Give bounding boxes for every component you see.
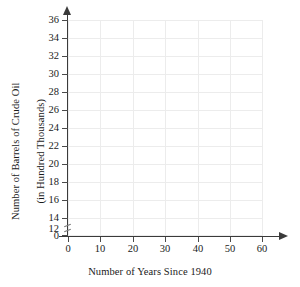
y-tick — [62, 218, 68, 219]
y-axis-break-stroke — [64, 224, 71, 227]
y-tick — [62, 182, 68, 183]
x-axis-line — [59, 236, 280, 237]
y-tick — [62, 56, 68, 57]
y-axis-arrow-icon — [63, 6, 71, 15]
y-tick-label: 14 — [19, 213, 59, 224]
y-tick-label: 28 — [19, 87, 59, 98]
y-tick-label: 16 — [19, 195, 59, 206]
gridline-vertical — [198, 20, 199, 236]
y-tick-label: 30 — [19, 69, 59, 80]
x-tick — [230, 237, 231, 242]
gridline-vertical — [68, 20, 69, 236]
y-tick-label: 18 — [19, 177, 59, 188]
y-tick — [62, 146, 68, 147]
gridline-vertical — [133, 20, 134, 236]
y-tick-label: 24 — [19, 123, 59, 134]
x-axis-arrow-icon — [279, 232, 288, 240]
y-tick — [62, 235, 68, 236]
y-tick-label: 26 — [19, 105, 59, 116]
x-tick — [262, 237, 263, 242]
x-tick — [68, 237, 69, 242]
x-tick — [165, 237, 166, 242]
y-tick-label: 20 — [19, 159, 59, 170]
y-tick — [62, 20, 68, 21]
plot-area — [68, 20, 263, 236]
gridline-vertical — [165, 20, 166, 236]
y-tick-label: 34 — [19, 33, 59, 44]
gridline-vertical — [262, 20, 263, 236]
x-tick — [198, 237, 199, 242]
y-tick — [62, 200, 68, 201]
gridline-vertical — [230, 20, 231, 236]
y-tick — [62, 164, 68, 165]
y-axis-break-stroke — [64, 229, 71, 232]
gridline-vertical — [100, 20, 101, 236]
y-axis-line — [67, 14, 68, 237]
y-tick-label: 22 — [19, 141, 59, 152]
y-tick — [62, 38, 68, 39]
y-tick — [62, 74, 68, 75]
y-tick-label-zero: 0 — [19, 231, 59, 242]
x-tick-label: 60 — [242, 244, 282, 255]
y-tick-label: 32 — [19, 51, 59, 62]
x-tick — [100, 237, 101, 242]
x-axis-title: Number of Years Since 1940 — [0, 266, 300, 277]
y-tick-label: 36 — [19, 15, 59, 26]
y-tick — [62, 128, 68, 129]
y-tick — [62, 110, 68, 111]
chart-container: Number of Barrels of Crude Oil (in Hundr… — [0, 0, 300, 287]
y-tick — [62, 92, 68, 93]
y-axis-break-icon — [64, 224, 71, 235]
x-tick — [133, 237, 134, 242]
